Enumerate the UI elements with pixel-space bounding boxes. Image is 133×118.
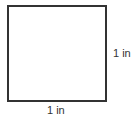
side-length-label: 1 in: [113, 47, 131, 59]
bottom-length-label: 1 in: [47, 104, 65, 116]
square-shape: [7, 5, 107, 102]
